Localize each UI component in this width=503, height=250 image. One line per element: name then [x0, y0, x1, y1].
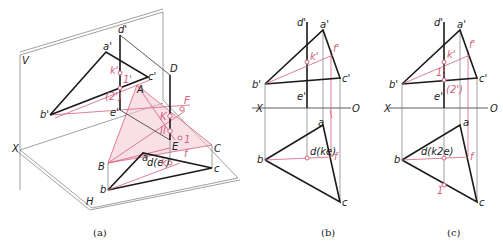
svg-text:e': e' [110, 107, 119, 118]
svg-text:1': 1' [436, 67, 445, 78]
h-plane-left-edge [20, 150, 92, 208]
svg-text:k': k' [447, 49, 456, 60]
panel-b: X O a' b' c' d' e' k' f' a b c d(ke) f (… [252, 17, 360, 238]
svg-text:c: c [214, 163, 220, 174]
svg-text:D: D [170, 63, 178, 74]
svg-text:X: X [255, 103, 264, 114]
svg-text:A: A [136, 84, 144, 95]
svg-text:f: f [184, 148, 189, 159]
svg-text:a: a [463, 117, 469, 128]
point-F [180, 107, 184, 111]
svg-text:a: a [318, 117, 324, 128]
svg-text:1': 1' [123, 74, 132, 85]
point-2-prime [118, 86, 122, 90]
svg-text:d(ke): d(ke) [310, 146, 336, 157]
svg-text:B: B [98, 161, 105, 172]
svg-text:1: 1 [437, 185, 443, 196]
v-plane-top-edge [20, 9, 163, 52]
svg-text:): ) [165, 157, 170, 168]
caption-c: (c) [447, 227, 461, 238]
point-II [168, 129, 172, 133]
svg-text:E: E [172, 141, 179, 152]
svg-text:k': k' [310, 51, 319, 62]
point-k-prime [118, 71, 122, 75]
svg-text:c': c' [342, 73, 350, 84]
label-H: H [86, 196, 94, 207]
svg-text:1: 1 [184, 134, 190, 145]
svg-text:c: c [479, 197, 485, 208]
label-X: X [11, 143, 20, 154]
svg-text:f: f [470, 151, 475, 162]
svg-text:c: c [342, 197, 348, 208]
svg-text:a': a' [320, 19, 329, 30]
svg-text:e': e' [297, 91, 306, 102]
svg-text:d(k2e): d(k2e) [421, 146, 453, 157]
svg-text:c': c' [148, 71, 156, 82]
svg-text:c': c' [479, 73, 487, 84]
svg-text:d': d' [297, 17, 306, 28]
caption-a: (a) [93, 227, 107, 238]
projection-diagram: V X H a' b' c' d' e' k' 1' (2') A B C D … [0, 0, 503, 250]
triangle-abc-h-projection [265, 125, 340, 202]
point-1 [178, 136, 182, 140]
svg-text:d': d' [118, 24, 127, 35]
svg-text:(2'): (2') [105, 91, 122, 102]
label-V: V [22, 55, 30, 66]
svg-text:(2'): (2') [446, 84, 463, 95]
svg-text:e': e' [434, 91, 443, 102]
svg-text:b': b' [389, 79, 398, 90]
svg-text:k': k' [110, 65, 119, 76]
caption-b: (b) [321, 227, 335, 238]
svg-text:f': f' [333, 43, 339, 54]
svg-text:II: II [160, 125, 166, 136]
svg-text:b: b [257, 154, 263, 165]
svg-text:O: O [490, 103, 498, 114]
svg-text:a': a' [457, 19, 466, 30]
svg-text:d': d' [434, 17, 443, 28]
svg-text:a': a' [103, 41, 112, 52]
panel-a: V X H a' b' c' d' e' k' 1' (2') A B C D … [11, 9, 240, 238]
svg-text:b': b' [252, 79, 261, 90]
svg-text:b': b' [40, 109, 49, 120]
svg-text:F: F [184, 95, 190, 106]
svg-text:C: C [214, 143, 221, 154]
svg-text:X: X [383, 103, 392, 114]
panel-c: X O a' b' c' d' e' k' 1' (2') f' a b c d… [383, 17, 498, 238]
svg-text:b: b [394, 154, 400, 165]
h-plane-front-edge [92, 178, 238, 208]
svg-text:b: b [100, 184, 106, 195]
svg-text:f': f' [469, 39, 475, 50]
svg-text:f: f [334, 151, 339, 162]
triangle-ABC-plane [108, 85, 212, 163]
point-K [168, 114, 172, 118]
svg-text:O: O [352, 103, 360, 114]
